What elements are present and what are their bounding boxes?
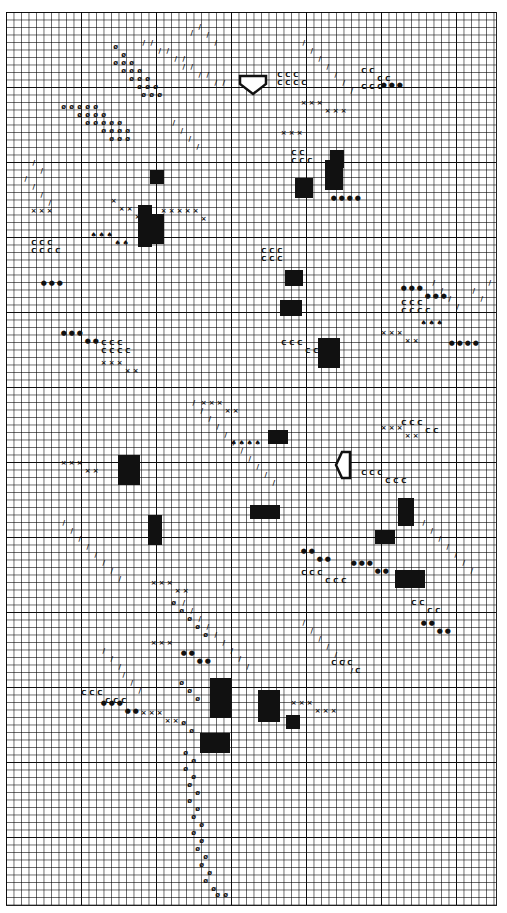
stitch-symbol: ×: [306, 700, 314, 708]
stitch-symbol: /: [196, 72, 204, 80]
stitch-symbol: C: [284, 80, 292, 88]
stitch-symbol: ø: [100, 120, 108, 128]
solid-fill-block: [144, 214, 164, 244]
stitch-symbol: ●: [396, 82, 404, 90]
stitch-symbol: ♠: [230, 440, 238, 448]
stitch-symbol: C: [108, 340, 116, 348]
stitch-symbol: ×: [200, 216, 208, 224]
arrow-left-icon: [334, 450, 370, 486]
stitch-symbol: C: [384, 478, 392, 486]
stitch-symbol: ×: [118, 206, 126, 214]
stitch-symbol: ×: [166, 640, 174, 648]
stitch-symbol: /: [300, 40, 308, 48]
stitch-symbol: C: [308, 570, 316, 578]
stitch-symbol: C: [400, 300, 408, 308]
stitch-symbol: ø: [202, 854, 210, 862]
stitch-symbol: /: [468, 568, 476, 576]
stitch-symbol: ●: [308, 548, 316, 556]
stitch-symbol: ×: [134, 214, 142, 222]
stitch-symbol: C: [434, 608, 442, 616]
stitch-symbol: C: [416, 308, 424, 316]
stitch-symbol: /: [196, 24, 204, 32]
stitch-symbol: /: [254, 464, 262, 472]
stitch-symbol: ●: [108, 700, 116, 708]
stitch-symbol: ×: [298, 700, 306, 708]
solid-fill-block: [150, 170, 164, 184]
stitch-symbol: ø: [76, 104, 84, 112]
stitch-symbol: /: [430, 280, 438, 288]
solid-fill-block: [375, 530, 395, 544]
stitch-symbol: ø: [128, 60, 136, 68]
stitch-symbol: ø: [120, 68, 128, 76]
stitch-symbol: C: [306, 158, 314, 166]
stitch-symbol: C: [298, 158, 306, 166]
stitch-symbol: ×: [396, 330, 404, 338]
stitch-symbol: ●: [132, 708, 140, 716]
stitch-symbol: ø: [190, 758, 198, 766]
stitch-symbol: ø: [84, 120, 92, 128]
solid-fill-block: [200, 733, 230, 753]
stitch-symbol: /: [194, 144, 202, 152]
stitch-symbol: /: [238, 448, 246, 456]
stitch-symbol: ø: [156, 92, 164, 100]
stitch-symbol: ø: [136, 76, 144, 84]
stitch-symbol: C: [416, 420, 424, 428]
stitch-symbol: /: [188, 64, 196, 72]
stitch-symbol: C: [280, 340, 288, 348]
stitch-symbol: C: [392, 478, 400, 486]
stitch-symbol: C: [408, 300, 416, 308]
stitch-symbol: C: [88, 690, 96, 698]
stitch-symbol: ×: [388, 330, 396, 338]
stitch-symbol: ♠: [254, 440, 262, 448]
stitch-symbol: /: [180, 56, 188, 64]
stitch-symbol: ×: [148, 710, 156, 718]
stitch-symbol: /: [420, 520, 428, 528]
stitch-symbol: ø: [116, 128, 124, 136]
stitch-symbol: /: [148, 40, 156, 48]
stitch-symbol: ×: [380, 330, 388, 338]
stitch-symbol: C: [400, 420, 408, 428]
stitch-symbol: ×: [150, 580, 158, 588]
stitch-symbol: ●: [48, 280, 56, 288]
stitch-symbol: ×: [158, 580, 166, 588]
stitch-symbol: /: [270, 480, 278, 488]
stitch-symbol: ø: [198, 822, 206, 830]
stitch-symbol: /: [486, 280, 494, 288]
stitch-symbol: /: [340, 80, 348, 88]
stitch-symbol: /: [116, 664, 124, 672]
stitch-symbol: ♠: [114, 240, 122, 248]
stitch-symbol: ø: [136, 84, 144, 92]
stitch-symbol: ●: [380, 82, 388, 90]
stitch-symbol: /: [38, 168, 46, 176]
stitch-symbol: /: [348, 88, 356, 96]
stitch-symbol: C: [400, 478, 408, 486]
stitch-symbol: ×: [174, 588, 182, 596]
stitch-symbol: ×: [208, 400, 216, 408]
stitch-symbol: /: [38, 192, 46, 200]
stitch-symbol: ●: [92, 338, 100, 346]
stitch-symbol: C: [290, 158, 298, 166]
stitch-symbol: ×: [330, 708, 338, 716]
stitch-symbol: C: [54, 248, 62, 256]
stitch-symbol: ●: [448, 340, 456, 348]
stitch-symbol: ●: [374, 568, 382, 576]
stitch-symbol: /: [452, 552, 460, 560]
stitch-symbol: /: [120, 672, 128, 680]
stitch-symbol: ×: [296, 130, 304, 138]
stitch-symbol: ●: [472, 340, 480, 348]
stitch-symbol: ×: [314, 708, 322, 716]
stitch-symbol: ø: [198, 838, 206, 846]
stitch-symbol: ●: [388, 82, 396, 90]
stitch-symbol: ø: [190, 814, 198, 822]
stitch-symbol: C: [330, 660, 338, 668]
stitch-symbol: /: [92, 552, 100, 560]
stitch-symbol: ×: [30, 208, 38, 216]
stitch-symbol: C: [300, 570, 308, 578]
stitch-symbol: C: [108, 348, 116, 356]
stitch-symbol: ×: [84, 468, 92, 476]
stitch-symbol: ø: [120, 52, 128, 60]
solid-fill-block: [250, 505, 280, 519]
stitch-symbol: C: [320, 348, 328, 356]
stitch-symbol: C: [260, 248, 268, 256]
stitch-symbol: /: [30, 160, 38, 168]
